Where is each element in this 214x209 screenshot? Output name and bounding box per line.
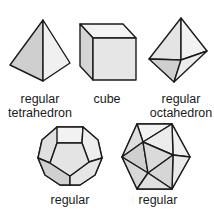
dodecahedron-icon xyxy=(38,127,102,185)
octahedron-label-line1: regular xyxy=(136,92,214,106)
dodecahedron-label: regular xyxy=(25,193,115,207)
tetrahedron-icon xyxy=(10,20,70,81)
cube-icon xyxy=(80,24,136,80)
octahedron-label-line2: octahedron xyxy=(136,106,214,120)
icosahedron-label-line1: regular xyxy=(113,193,203,207)
octahedron-icon xyxy=(149,18,207,82)
icosahedron-label: regular xyxy=(113,193,203,207)
octahedron-label: regular octahedron xyxy=(136,92,214,120)
dodecahedron-label-line1: regular xyxy=(25,193,115,207)
icosahedron-icon xyxy=(122,124,190,189)
tetrahedron-label-line2: tetrahedron xyxy=(0,106,85,120)
